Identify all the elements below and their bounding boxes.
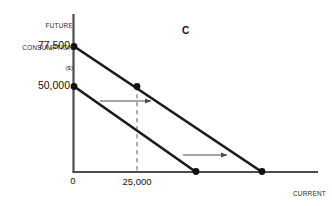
x-tick-label-0: 0 (64, 176, 82, 187)
y-tick-label-77500: 77,500 (38, 40, 70, 52)
y-axis-title-unit: ($) (22, 65, 73, 71)
y-tick-label-50000: 50,000 (38, 80, 70, 92)
x-tick-label-25000: 25,000 (109, 177, 165, 188)
point-25000-50000 (134, 83, 141, 90)
budget-constraint-chart: FUTURE CONSUMPTION ($) 77,500 50,000 0 2… (0, 0, 332, 206)
panel-label: C (182, 25, 189, 36)
point-x-intercept-original (193, 168, 200, 175)
budget-line-original (74, 86, 197, 172)
x-axis-title: CURRENT CONSUMPTION ($) (265, 176, 326, 206)
y-axis-title-line1: FUTURE (22, 22, 73, 29)
x-axis-title-line1: CURRENT (265, 190, 326, 197)
point-x-intercept-new (259, 168, 266, 175)
